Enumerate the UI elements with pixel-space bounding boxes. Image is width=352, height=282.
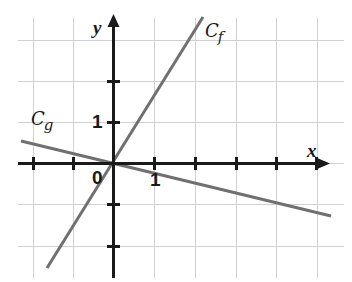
y-axis-tick-label-1: 1 — [92, 112, 103, 131]
x-axis-label: x — [307, 141, 317, 160]
curve-f-script-c: C — [205, 20, 219, 41]
curve-g-label: Cg — [31, 110, 54, 128]
origin-label: 0 — [92, 168, 103, 187]
curve-g-script-c: C — [31, 108, 45, 129]
figure-background — [0, 0, 352, 282]
graph-figure: y x 0 1 1 Cf Cg — [0, 0, 352, 282]
coordinate-plane-svg — [0, 0, 352, 282]
curve-g-subscript: g — [44, 116, 54, 134]
curve-f-label: Cf — [205, 22, 224, 40]
x-axis-tick-label-1: 1 — [150, 170, 161, 189]
curve-f-subscript: f — [218, 28, 224, 46]
y-axis-label: y — [93, 18, 101, 37]
